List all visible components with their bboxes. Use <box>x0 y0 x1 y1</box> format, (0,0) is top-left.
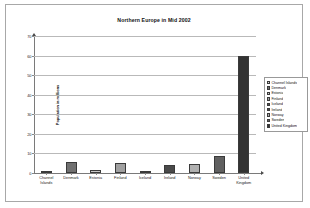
y-tick-label: 0 <box>29 171 31 176</box>
chart-legend: Channel IslandsDenmarkEstoniaFinlandIcel… <box>264 77 308 132</box>
bar-slot: Iceland <box>133 36 158 173</box>
chart-title: Northern Europe in Mid 2002 <box>6 17 302 23</box>
x-tick-mark <box>194 173 195 175</box>
x-axis-line <box>34 173 262 174</box>
bar[interactable] <box>115 163 126 173</box>
legend-label: Iceland <box>271 102 283 106</box>
x-tick-label: ChannelIslands <box>39 176 53 185</box>
x-tick-mark <box>145 173 146 175</box>
y-tick-label: 20 <box>27 131 31 136</box>
plot-area: Population in millions 706050403020100 C… <box>34 36 256 173</box>
x-tick-label: Estonia <box>89 176 102 181</box>
legend-label: Estonia <box>271 91 283 95</box>
bar-slot: Estonia <box>83 36 108 173</box>
x-tick-mark <box>46 173 47 175</box>
x-tick-mark <box>219 173 220 175</box>
legend-item[interactable]: United Kingdom <box>267 123 306 128</box>
bar-series: ChannelIslandsDenmarkEstoniaFinlandIcela… <box>34 36 256 173</box>
legend-swatch-icon <box>267 108 270 111</box>
y-tick-label: 10 <box>27 151 31 156</box>
bar[interactable] <box>238 56 249 173</box>
x-tick-label: Denmark <box>63 176 78 181</box>
legend-label: Sweden <box>271 118 284 122</box>
legend-label: Denmark <box>271 86 286 90</box>
bar-slot: Sweden <box>207 36 232 173</box>
y-tick-label: 60 <box>27 53 31 58</box>
x-tick-label: Norway <box>188 176 201 181</box>
bar[interactable] <box>189 164 200 173</box>
legend-swatch-icon <box>267 92 270 95</box>
y-tick-label: 70 <box>27 34 31 39</box>
legend-swatch-icon <box>267 97 270 100</box>
x-tick-mark <box>71 173 72 175</box>
legend-label: United Kingdom <box>271 124 297 128</box>
x-tick-mark <box>96 173 97 175</box>
y-tick-label: 40 <box>27 92 31 97</box>
bar[interactable] <box>66 162 77 173</box>
chart-frame: Northern Europe in Mid 2002 Population i… <box>5 4 303 202</box>
x-tick-label: Iceland <box>139 176 151 181</box>
legend-label: Finland <box>271 97 283 101</box>
y-tick-mark <box>32 173 34 174</box>
bar-slot: UnitedKingdom <box>231 36 256 173</box>
bar[interactable] <box>214 156 225 173</box>
bar-slot: Finland <box>108 36 133 173</box>
y-tick-label: 50 <box>27 73 31 78</box>
bar-slot: Ireland <box>157 36 182 173</box>
x-tick-label: Ireland <box>164 176 176 181</box>
x-axis-arrow <box>261 171 264 175</box>
legend-swatch-icon <box>267 119 270 122</box>
x-tick-label: Finland <box>114 176 126 181</box>
x-tick-mark <box>170 173 171 175</box>
legend-swatch-icon <box>267 113 270 116</box>
legend-label: Norway <box>271 113 283 117</box>
legend-swatch-icon <box>267 124 270 127</box>
legend-label: Ireland <box>271 108 282 112</box>
bar-slot: Denmark <box>59 36 84 173</box>
legend-label: Channel Islands <box>271 81 297 85</box>
x-tick-mark <box>120 173 121 175</box>
bar-slot: Norway <box>182 36 207 173</box>
x-tick-label: UnitedKingdom <box>236 176 251 185</box>
bar-slot: ChannelIslands <box>34 36 59 173</box>
x-tick-mark <box>244 173 245 175</box>
legend-swatch-icon <box>267 103 270 106</box>
bar[interactable] <box>164 165 175 173</box>
legend-swatch-icon <box>267 81 270 84</box>
x-tick-label: Sweden <box>212 176 226 181</box>
legend-swatch-icon <box>267 86 270 89</box>
y-tick-label: 30 <box>27 112 31 117</box>
